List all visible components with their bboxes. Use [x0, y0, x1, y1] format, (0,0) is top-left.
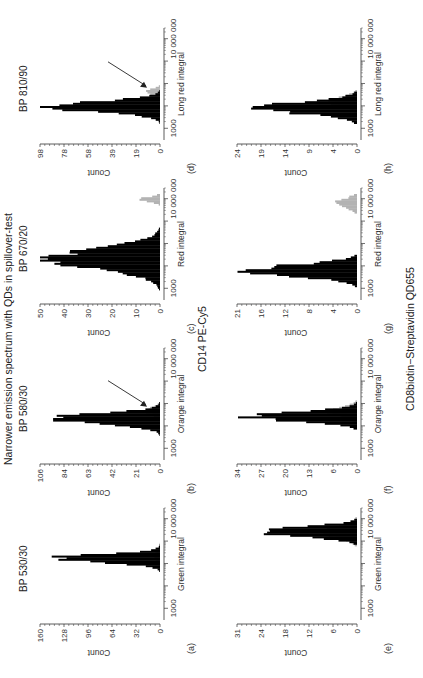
y-tick-label: 31 — [233, 628, 242, 637]
arrow-annotation — [108, 62, 146, 86]
histogram-plot: 0326496128160100010 000 000 — [18, 496, 193, 656]
x-tick-label: 10 000 000 — [169, 18, 178, 59]
x-tick-label: 10 000 000 — [169, 498, 178, 539]
histogram-plot: 048121621100010 000 000 — [215, 176, 390, 336]
y-tick-label: 0 — [156, 468, 165, 473]
y-tick-label: 0 — [156, 628, 165, 633]
y-tick-label: 160 — [36, 628, 45, 642]
y-tick-label: 0 — [353, 628, 362, 633]
spillover-histogram — [140, 194, 161, 206]
axes — [40, 508, 164, 624]
y-tick-label: 32 — [132, 628, 141, 637]
y-tick-label: 10 — [132, 308, 141, 317]
primary-histogram — [238, 255, 358, 287]
y-tick-label: 128 — [60, 628, 69, 642]
y-tick-label: 0 — [353, 308, 362, 313]
y-tick-label: 19 — [132, 148, 141, 157]
y-tick-label: 98 — [36, 148, 45, 157]
y-tick-label: 12 — [305, 628, 314, 637]
y-tick-label: 18 — [281, 628, 290, 637]
primary-histogram — [40, 228, 160, 291]
figure: Narrower emission spectrum with QDs in s… — [0, 0, 423, 678]
y-tick-label: 50 — [36, 308, 45, 317]
row-label-cd14: CD14 PE-Cy5 — [196, 0, 208, 678]
y-tick-label: 0 — [353, 468, 362, 473]
primary-histogram — [53, 402, 160, 436]
x-tick-label: 1000 — [366, 439, 375, 457]
y-tick-label: 0 — [156, 148, 165, 153]
panel-c: BP 670/20CountRed integral(c)01020304050… — [18, 176, 193, 336]
y-tick-label: 27 — [257, 468, 266, 477]
axes — [237, 348, 361, 464]
y-tick-label: 39 — [108, 148, 117, 157]
histogram-plot: 021426384106100010 000 000 — [18, 336, 193, 496]
y-tick-label: 58 — [84, 148, 93, 157]
x-tick-label: 10 000 000 — [366, 498, 375, 539]
y-tick-label: 14 — [281, 148, 290, 157]
y-tick-label: 24 — [257, 628, 266, 637]
y-tick-label: 84 — [60, 468, 69, 477]
panel-a: BP 530/30CountGreen integral(a)032649612… — [18, 496, 193, 656]
panel-b: BP 580/30CountOrange integral(b)02142638… — [18, 336, 193, 496]
y-tick-label: 6 — [329, 468, 338, 473]
panel-h: CountLong red integral(h)049141924100010… — [215, 16, 390, 176]
x-tick-label: 1000 — [366, 599, 375, 617]
y-tick-label: 42 — [108, 468, 117, 477]
x-tick-label: 1000 — [169, 119, 178, 137]
histogram-plot: 0613202734100010 000 000 — [215, 336, 390, 496]
panel-g: CountRed integral(g)048121621100010 000 … — [215, 176, 390, 336]
primary-histogram — [52, 544, 160, 572]
figure-title: Narrower emission spectrum with QDs in s… — [2, 0, 14, 678]
row-label-cd8: CD8biotin−Streptavidin QD655 — [404, 0, 416, 678]
x-tick-label: 1000 — [169, 599, 178, 617]
y-tick-label: 64 — [108, 628, 117, 637]
y-tick-label: 6 — [329, 628, 338, 633]
histogram-plot: 0612182431100010 000 000 — [215, 496, 390, 656]
y-tick-label: 12 — [281, 308, 290, 317]
x-tick-label: 1000 — [169, 279, 178, 297]
x-tick-label: 1000 — [366, 119, 375, 137]
y-tick-label: 21 — [233, 308, 242, 317]
primary-histogram — [264, 519, 357, 545]
y-tick-label: 106 — [36, 468, 45, 482]
y-tick-label: 21 — [132, 468, 141, 477]
x-tick-label: 10 000 000 — [169, 178, 178, 219]
panel-e: CountGreen integral(e)0612182431100010 0… — [215, 496, 390, 656]
axes — [237, 28, 361, 144]
panel-f: CountOrange integral(f)0613202734100010 … — [215, 336, 390, 496]
y-tick-label: 78 — [60, 148, 69, 157]
x-tick-label: 10 000 000 — [366, 178, 375, 219]
y-tick-label: 0 — [353, 148, 362, 153]
y-tick-label: 96 — [84, 628, 93, 637]
histogram-plot: 01939587898100010 000 000 — [18, 16, 193, 176]
y-tick-label: 34 — [233, 468, 242, 477]
spillover-histogram — [335, 194, 357, 214]
y-tick-label: 4 — [329, 308, 338, 313]
x-tick-label: 1000 — [169, 439, 178, 457]
arrow-annotation — [108, 381, 146, 405]
y-tick-label: 13 — [305, 468, 314, 477]
x-tick-label: 10 000 000 — [169, 338, 178, 379]
y-tick-label: 19 — [257, 148, 266, 157]
x-tick-label: 1000 — [366, 279, 375, 297]
histogram-plot: 049141924100010 000 000 — [215, 16, 390, 176]
y-tick-label: 20 — [108, 308, 117, 317]
y-tick-label: 0 — [156, 308, 165, 313]
x-tick-label: 10 000 000 — [366, 18, 375, 59]
primary-histogram — [238, 402, 357, 430]
y-tick-label: 20 — [281, 468, 290, 477]
y-tick-label: 4 — [329, 148, 338, 153]
y-tick-label: 40 — [60, 308, 69, 317]
panel-d: BP 810/90CountLong red integral(d)019395… — [18, 16, 193, 176]
histogram-plot: 01020304050100010 000 000 — [18, 176, 193, 336]
primary-histogram — [40, 90, 160, 124]
y-tick-label: 8 — [305, 308, 314, 313]
y-tick-label: 16 — [257, 308, 266, 317]
y-tick-label: 24 — [233, 148, 242, 157]
y-tick-label: 63 — [84, 468, 93, 477]
y-tick-label: 30 — [84, 308, 93, 317]
x-tick-label: 10 000 000 — [366, 338, 375, 379]
y-tick-label: 9 — [305, 148, 314, 153]
